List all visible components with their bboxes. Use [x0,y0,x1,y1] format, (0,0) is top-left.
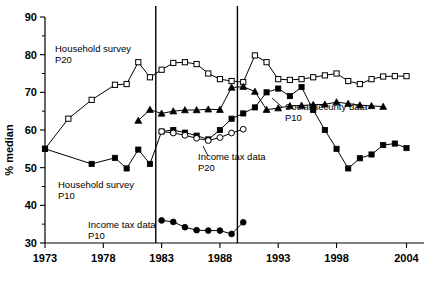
data-point-open-square [147,75,152,80]
data-point-filled-square [404,145,409,150]
data-point-filled-triangle [252,88,259,94]
data-point-open-square [322,73,327,78]
data-point-filled-square [229,116,234,121]
y-axis-tick-label: 70 [25,86,37,98]
data-point-open-circle [229,130,235,136]
anno-household-p20-sub: P20 [55,54,72,65]
data-point-open-square [357,81,362,86]
anno-social-security-p10-leader [272,98,282,107]
line-chart-plot: 3040506070809019731978198319881993199820… [0,0,434,288]
data-point-filled-square [136,147,141,152]
data-point-open-square [182,60,187,65]
anno-social-security-p10: Social security data [285,101,368,112]
chart-container: 3040506070809019731978198319881993199820… [0,0,434,288]
data-point-open-square [194,61,199,66]
data-point-filled-circle [182,224,188,230]
data-point-filled-circle [229,231,235,237]
x-axis-tick-label: 2004 [394,252,419,264]
data-point-open-circle [240,126,246,132]
data-point-open-square [369,77,374,82]
data-point-filled-square [241,111,246,116]
data-point-open-square [206,71,211,76]
anno-income-tax-p20-sub: P20 [198,162,215,173]
data-point-filled-circle [240,219,246,225]
data-point-open-circle [170,130,176,136]
data-point-open-square [381,74,386,79]
data-point-open-square [112,82,117,87]
anno-income-tax-p20: Income tax data [198,151,266,162]
data-point-filled-square [217,127,222,132]
data-point-filled-triangle [147,106,154,112]
y-axis-tick-label: 30 [25,237,37,249]
data-point-filled-square [252,105,257,110]
y-axis-tick-label: 60 [25,124,37,136]
data-point-filled-square [369,152,374,157]
anno-household-p10: Household survey [58,179,134,190]
data-point-filled-circle [205,228,211,234]
data-point-filled-square [147,161,152,166]
data-point-open-circle [182,132,188,138]
anno-income-tax-p10: Income tax data [88,219,156,230]
data-point-filled-square [381,142,386,147]
data-point-open-square [392,74,397,79]
data-point-open-circle [217,135,223,141]
data-point-open-square [89,97,94,102]
data-point-filled-square [334,146,339,151]
data-point-filled-square [392,141,397,146]
y-axis-title: % median [3,124,15,176]
x-axis-tick-label: 1983 [149,252,173,264]
data-point-open-square [299,77,304,82]
data-point-filled-square [276,86,281,91]
data-point-open-square [264,60,269,65]
data-point-filled-square [112,155,117,160]
y-axis-tick-label: 50 [25,162,37,174]
data-point-open-square [171,60,176,65]
data-point-filled-square [89,161,94,166]
data-point-filled-circle [170,219,176,225]
data-point-open-square [159,67,164,72]
x-axis-tick-label: 1973 [33,252,57,264]
data-point-open-square [404,74,409,79]
anno-household-p20: Household survey [55,43,131,54]
data-point-open-square [276,77,281,82]
data-point-filled-square [264,90,269,95]
data-point-open-square [217,77,222,82]
data-point-filled-square [357,156,362,161]
data-point-open-square [124,81,129,86]
data-point-open-square [136,60,141,65]
data-point-filled-circle [217,228,223,234]
x-axis-tick-label: 1993 [266,252,290,264]
y-axis-tick-label: 40 [25,199,37,211]
data-point-open-circle [159,129,165,135]
x-axis-tick-label: 1978 [91,252,115,264]
data-point-open-square [229,78,234,83]
y-axis-tick-label: 80 [25,49,37,61]
data-point-open-square [252,53,257,58]
data-point-filled-circle [159,218,165,224]
data-point-filled-square [287,94,292,99]
data-point-open-square [346,78,351,83]
y-axis-tick-label: 90 [25,11,37,23]
data-point-open-square [311,75,316,80]
data-series-layer [42,53,409,237]
data-point-filled-square [299,84,304,89]
series-5 [159,218,246,237]
anno-household-p10-sub: P10 [58,190,75,201]
data-point-filled-square [346,166,351,171]
data-point-open-square [334,71,339,76]
data-point-filled-square [124,166,129,171]
data-point-filled-circle [194,227,200,233]
anno-income-tax-p10-sub: P10 [88,230,105,241]
data-point-open-square [287,77,292,82]
x-axis-tick-label: 1998 [324,252,348,264]
data-point-open-square [66,116,71,121]
data-point-open-circle [205,138,211,144]
data-point-filled-square [42,146,47,151]
data-point-open-circle [194,135,200,141]
data-point-filled-square [322,127,327,132]
annotation-layer: Household surveyP20Household surveyP10So… [55,43,368,241]
x-axis-tick-label: 1988 [208,252,232,264]
anno-social-security-p10-sub: P10 [285,112,302,123]
